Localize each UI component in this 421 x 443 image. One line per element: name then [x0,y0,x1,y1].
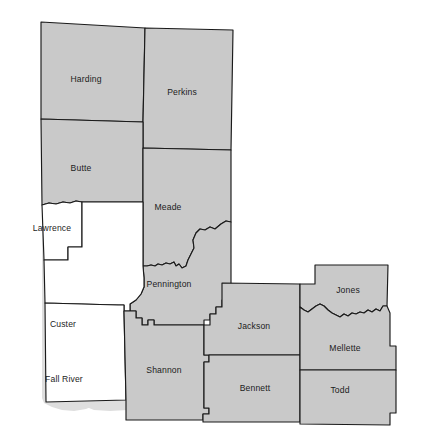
county-todd[interactable] [300,370,396,425]
county-label-todd: Todd [330,385,349,395]
county-label-pennington: Pennington [147,279,192,289]
county-map-svg: Harding Perkins Butte Meade Lawrence Pen… [0,0,421,443]
county-label-jones: Jones [336,285,360,295]
county-label-meade: Meade [154,202,181,212]
county-label-mellette: Mellette [329,343,360,353]
county-label-jackson: Jackson [238,321,271,331]
county-label-shannon: Shannon [146,365,182,375]
county-label-perkins: Perkins [167,87,197,97]
county-label-butte: Butte [71,163,92,173]
county-label-lawrence: Lawrence [33,223,72,233]
county-label-harding: Harding [70,74,101,84]
county-label-custer: Custer [50,319,76,329]
county-label-fall-river: Fall River [45,374,83,384]
county-fall-river[interactable] [45,303,126,402]
county-harding[interactable] [41,22,145,122]
county-label-bennett: Bennett [240,383,271,393]
county-butte[interactable] [41,119,143,205]
county-map-container: Harding Perkins Butte Meade Lawrence Pen… [0,0,421,443]
